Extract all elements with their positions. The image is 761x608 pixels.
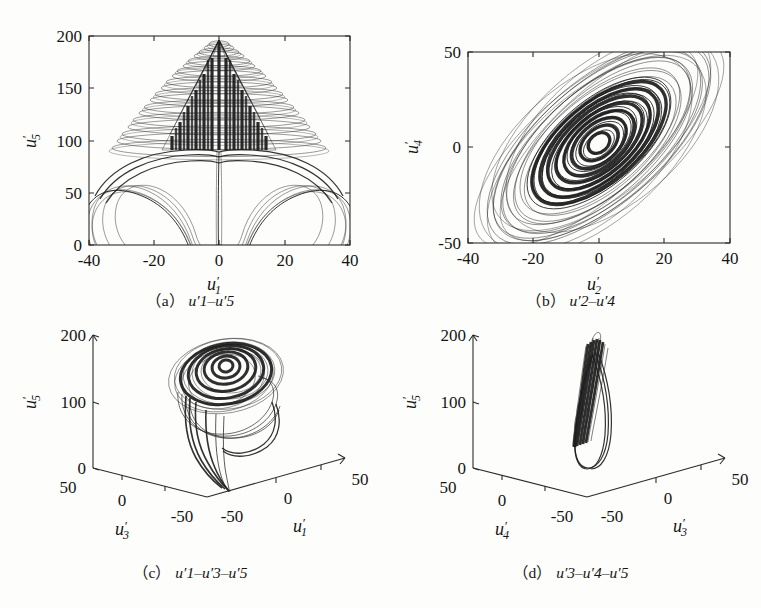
svg-text:0: 0 — [215, 251, 224, 270]
panel-c: 0 100 200 50 0 -50 -50 0 50 u′5 — [0, 310, 380, 608]
panel-d: 0 100 200 50 0 -50 -50 0 50 u′5 — [380, 310, 761, 608]
svg-text:u′3: u′3 — [115, 518, 129, 542]
svg-text:50: 50 — [65, 184, 82, 203]
svg-text:u′4: u′4 — [495, 518, 509, 542]
svg-text:200: 200 — [57, 27, 83, 46]
panel-d-caption: （d） u′3–u′4–u′5 — [380, 560, 761, 582]
svg-text:0: 0 — [453, 138, 462, 157]
panel-d-attractor — [572, 331, 612, 469]
panel-d-xaxis-label: u′3 — [673, 515, 687, 539]
panel-c-caption: （c） u′1–u′3–u′5 — [0, 560, 380, 582]
panel-d-zaxis-label: u′5 — [399, 395, 423, 409]
panel-d-zticklabels: 0 100 200 — [441, 326, 467, 478]
svg-text:200: 200 — [441, 326, 467, 345]
svg-text:-20: -20 — [143, 251, 166, 270]
svg-text:-50: -50 — [601, 507, 624, 526]
svg-text:150: 150 — [57, 79, 83, 98]
panel-b-caption: （b） u′2–u′4 — [380, 288, 761, 310]
panel-a-caption: （a） u′1–u′5 — [0, 288, 380, 310]
svg-text:u′1: u′1 — [293, 515, 307, 539]
panel-c-caption-index: （c） — [133, 564, 172, 581]
panel-a-xticklabels: -40 -20 0 20 40 — [78, 251, 359, 270]
svg-text:0: 0 — [595, 249, 604, 268]
svg-text:-50: -50 — [551, 507, 574, 526]
panel-c-zticklabels: 0 100 200 — [61, 326, 87, 478]
panel-a-caption-vars: u′1–u′5 — [189, 292, 235, 309]
svg-text:u′5: u′5 — [19, 395, 43, 409]
svg-text:50: 50 — [352, 470, 369, 489]
svg-text:100: 100 — [441, 393, 467, 412]
panel-b-caption-vars: u′2–u′4 — [570, 292, 616, 309]
svg-text:0: 0 — [664, 489, 673, 508]
svg-text:-50: -50 — [438, 234, 461, 253]
panel-a-yaxis-label: u′5 — [19, 134, 43, 148]
panel-b-plot: -40 -20 0 20 40 -50 0 50 u′2 u′4 — [380, 0, 761, 310]
panel-a: -40 -20 0 20 40 0 50 100 150 200 u′1 — [0, 0, 380, 310]
svg-text:u′5: u′5 — [19, 134, 43, 148]
panel-a-plot: -40 -20 0 20 40 0 50 100 150 200 u′1 — [0, 0, 380, 310]
svg-text:100: 100 — [61, 393, 87, 412]
svg-text:50: 50 — [60, 478, 77, 497]
svg-text:50: 50 — [440, 478, 457, 497]
svg-text:20: 20 — [277, 251, 294, 270]
svg-text:-20: -20 — [522, 249, 545, 268]
panel-a-caption-index: （a） — [146, 292, 185, 309]
panel-c-xaxis-label: u′1 — [293, 515, 307, 539]
panel-d-caption-vars: u′3–u′4–u′5 — [556, 564, 628, 581]
svg-text:u′3: u′3 — [673, 515, 687, 539]
svg-text:0: 0 — [498, 491, 507, 510]
figure-canvas: -40 -20 0 20 40 0 50 100 150 200 u′1 — [0, 0, 761, 608]
svg-text:200: 200 — [61, 326, 87, 345]
svg-text:0: 0 — [284, 489, 293, 508]
svg-text:50: 50 — [732, 470, 749, 489]
panel-b-yticklabels: -50 0 50 — [438, 43, 461, 253]
panel-b-yaxis-label: u′4 — [401, 140, 425, 154]
svg-text:0: 0 — [78, 459, 87, 478]
svg-text:-50: -50 — [171, 507, 194, 526]
panel-c-attractor — [162, 329, 289, 492]
svg-text:u′5: u′5 — [399, 395, 423, 409]
figure-bottom-caption — [0, 594, 761, 608]
svg-text:-50: -50 — [221, 507, 244, 526]
svg-text:40: 40 — [342, 251, 359, 270]
panel-a-yticklabels: 0 50 100 150 200 — [57, 27, 83, 255]
panel-d-yaxis-label: u′4 — [495, 518, 509, 542]
svg-text:40: 40 — [722, 249, 739, 268]
svg-text:u′4: u′4 — [401, 140, 425, 154]
svg-text:100: 100 — [57, 132, 83, 151]
svg-text:0: 0 — [458, 459, 467, 478]
svg-text:20: 20 — [656, 249, 673, 268]
panel-c-caption-vars: u′1–u′3–u′5 — [175, 564, 247, 581]
svg-text:0: 0 — [118, 491, 127, 510]
svg-text:50: 50 — [444, 43, 461, 62]
panel-c-zaxis-label: u′5 — [19, 395, 43, 409]
svg-text:0: 0 — [74, 236, 83, 255]
panel-b-caption-index: （b） — [526, 292, 566, 309]
panel-b: -40 -20 0 20 40 -50 0 50 u′2 u′4 — [380, 0, 761, 310]
panel-c-yaxis-label: u′3 — [115, 518, 129, 542]
panel-b-xticklabels: -40 -20 0 20 40 — [457, 249, 739, 268]
panel-d-caption-index: （d） — [513, 564, 553, 581]
